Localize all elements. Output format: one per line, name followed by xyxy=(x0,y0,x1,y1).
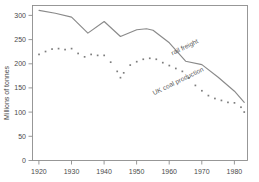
data-point-marker xyxy=(51,48,53,50)
data-point-marker xyxy=(227,102,229,104)
x-tick-label: 1950 xyxy=(129,168,145,175)
y-tick-label: 100 xyxy=(14,109,26,116)
data-point-marker xyxy=(162,62,164,64)
x-tick-label: 1970 xyxy=(194,168,210,175)
data-point-marker xyxy=(221,100,223,102)
y-tick-label: 0 xyxy=(22,157,26,164)
y-tick-label: 150 xyxy=(14,84,26,91)
data-point-marker xyxy=(38,54,40,56)
data-point-marker xyxy=(129,64,131,66)
y-tick-label: 200 xyxy=(14,60,26,67)
line-chart: 0 50 100 150 200 250 xyxy=(0,0,259,182)
x-tick-label: 1930 xyxy=(64,168,80,175)
data-point-marker xyxy=(214,98,216,100)
data-point-marker xyxy=(155,58,157,60)
data-point-marker xyxy=(64,49,66,51)
data-point-marker xyxy=(110,61,112,63)
data-point-marker xyxy=(240,106,242,108)
data-point-marker xyxy=(84,56,86,58)
data-point-marker xyxy=(45,51,47,53)
data-point-marker xyxy=(136,61,138,63)
chart-background xyxy=(0,0,259,182)
y-tick-label: 50 xyxy=(18,133,26,140)
y-tick-label: 250 xyxy=(14,36,26,43)
data-point-marker xyxy=(234,102,236,104)
data-point-marker xyxy=(77,53,79,55)
y-tick-label: 300 xyxy=(14,12,26,19)
data-point-marker xyxy=(175,68,177,70)
x-tick-label: 1960 xyxy=(161,168,177,175)
data-point-marker xyxy=(116,71,118,73)
x-tick-label: 1940 xyxy=(96,168,112,175)
data-point-marker xyxy=(243,111,245,113)
x-tick-label: 1920 xyxy=(31,168,47,175)
data-point-marker xyxy=(182,71,184,73)
data-point-marker xyxy=(201,90,203,92)
y-axis-title: Millions of tonnes xyxy=(3,65,10,120)
data-point-marker xyxy=(97,55,99,57)
data-point-marker xyxy=(103,55,105,57)
data-point-marker xyxy=(71,48,73,50)
data-point-marker xyxy=(142,58,144,60)
data-point-marker xyxy=(208,95,210,97)
data-point-marker xyxy=(195,85,197,87)
data-point-marker xyxy=(90,54,92,56)
data-point-marker xyxy=(58,48,60,50)
data-point-marker xyxy=(120,77,122,79)
x-tick-label: 1980 xyxy=(227,168,243,175)
data-point-marker xyxy=(168,65,170,67)
data-point-marker xyxy=(123,72,125,74)
data-point-marker xyxy=(149,57,151,59)
chart-container: 0 50 100 150 200 250 xyxy=(0,0,259,182)
